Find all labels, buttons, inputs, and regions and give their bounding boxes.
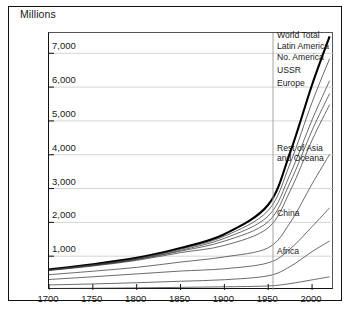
series-line — [49, 208, 330, 280]
population-chart-figure: Millions 1,0002,0003,0004,0005,0006,0007… — [0, 0, 356, 317]
series-label: Europe — [277, 78, 305, 89]
series-line — [49, 81, 330, 270]
series-label: World Total — [277, 30, 320, 41]
series-label: USSR — [277, 65, 301, 76]
series-label: No. America — [277, 52, 324, 63]
series-label: Rest of Asia — [277, 143, 323, 154]
x-tick-label: 1800 — [125, 293, 146, 304]
y-tick-label: 2,000 — [52, 209, 76, 220]
y-tick-label: 7,000 — [52, 40, 76, 51]
x-tick-label: 1900 — [213, 293, 234, 304]
series-line — [49, 277, 330, 289]
series-label: and Oceana — [277, 153, 324, 164]
y-tick-label: 3,000 — [52, 176, 76, 187]
y-tick-label: 4,000 — [52, 142, 76, 153]
series-line — [49, 94, 330, 271]
y-axis-title: Millions — [20, 8, 56, 20]
series-label: China — [277, 208, 299, 219]
x-tick-label: 1700 — [37, 293, 58, 304]
x-tick-label: 1950 — [257, 293, 278, 304]
y-tick-label: 6,000 — [52, 74, 76, 85]
x-tick-label: 1850 — [169, 293, 190, 304]
y-tick-label: 1,000 — [52, 243, 76, 254]
series-label: Africa — [277, 246, 299, 257]
y-tick-label: 5,000 — [52, 108, 76, 119]
x-tick-label: 1750 — [81, 293, 102, 304]
series-line — [49, 59, 330, 270]
x-tick-label: 2000 — [300, 293, 321, 304]
series-label: Latin America — [277, 41, 329, 52]
